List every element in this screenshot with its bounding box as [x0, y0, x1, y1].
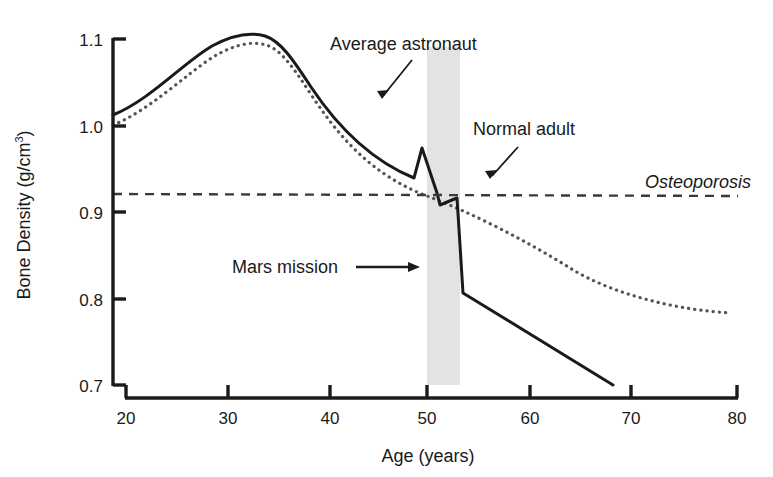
- y-tick-label-1: 1.0: [79, 118, 103, 137]
- y-tick-label-2: 0.9: [79, 204, 103, 223]
- x-tick-label-1: 30: [219, 409, 238, 428]
- x-tick-label-2: 40: [321, 409, 340, 428]
- chart-canvas: 1.1 1.0 0.9 0.8 0.7 20 30 40 50 60 70 80…: [0, 0, 773, 477]
- mars-mission-band: [427, 47, 460, 385]
- y-axis-title-base: Bone Density (g/cm: [14, 143, 34, 300]
- svg-text:Bone Density (g/cm3): Bone Density (g/cm3): [13, 130, 34, 299]
- x-axis-title: Age (years): [381, 446, 474, 466]
- x-tick-label-4: 60: [521, 409, 540, 428]
- y-axis-title: Bone Density (g/cm3): [13, 130, 34, 299]
- annotation-mars-mission: Mars mission: [232, 257, 338, 277]
- x-tick-label-6: 80: [728, 409, 747, 428]
- y-axis-title-tail: ): [14, 130, 34, 136]
- y-tick-label-4: 0.7: [79, 377, 103, 396]
- series-osteoporosis-threshold: [113, 194, 738, 196]
- series-normal-adult: [113, 43, 730, 313]
- annotation-osteoporosis: Osteoporosis: [645, 172, 751, 192]
- x-tick-label-0: 20: [117, 409, 136, 428]
- series-average-astronaut: [113, 34, 613, 385]
- x-tick-label-3: 50: [418, 409, 437, 428]
- x-tick-label-5: 70: [622, 409, 641, 428]
- annotation-normal-adult: Normal adult: [473, 119, 575, 139]
- leader-arrow-mars-mission: [408, 262, 420, 272]
- leader-line-normal-adult: [492, 147, 518, 176]
- leader-arrow-normal-adult: [485, 170, 497, 179]
- annotation-average-astronaut: Average astronaut: [330, 34, 477, 54]
- bone-density-chart: 1.1 1.0 0.9 0.8 0.7 20 30 40 50 60 70 80…: [0, 0, 773, 477]
- y-tick-label-0: 1.1: [79, 31, 103, 50]
- leader-arrow-average-astronaut: [377, 90, 389, 99]
- y-tick-label-3: 0.8: [79, 291, 103, 310]
